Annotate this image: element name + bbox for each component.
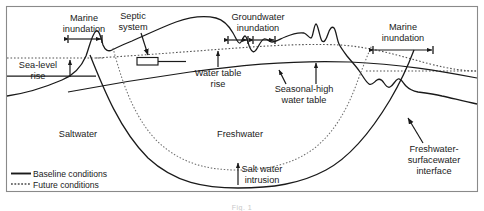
freshwater-surfacewater-interface-label-line1: Freshwater- [409, 144, 458, 154]
marine-inundation-right-label-line1: Marine [389, 22, 417, 32]
seasonal-high-water-table-arrow-1 [279, 70, 286, 84]
freshwater-surfacewater-interface-label-line2: surfacewater [408, 155, 461, 165]
legend-label-future: Future conditions [33, 180, 99, 190]
salt-water-intrusion-label-line1: Salt water [242, 164, 283, 174]
cross-section-diagram: Marine inundation Septic system Groundwa… [0, 0, 484, 211]
groundwater-inundation-label-line1: Groundwater [231, 12, 284, 22]
freshwater-label: Freshwater [217, 129, 263, 139]
marine-inundation-left-label-line2: inundation [63, 24, 105, 34]
salt-water-intrusion-label-line2: intrusion [245, 175, 280, 185]
freshwater-surfacewater-interface-pointer-arrow [408, 118, 423, 143]
sea-level-rise-label-line2: rise [31, 71, 46, 81]
water-table-rise-label-line2: rise [211, 79, 226, 89]
marine-inundation-left-label-line1: Marine [70, 13, 98, 23]
marine-inundation-right-label-line2: inundation [382, 33, 424, 43]
figure-caption: Fig. 1 [0, 204, 484, 211]
sea-level-rise-label-line1: Sea-level [19, 60, 57, 70]
saltwater-label: Saltwater [59, 129, 97, 139]
water-table-rise-label-line1: Water table [195, 68, 242, 78]
septic-system-tank [137, 58, 158, 66]
legend-item-baseline: Baseline conditions [11, 169, 107, 179]
figure-container: Marine inundation Septic system Groundwa… [0, 0, 484, 211]
septic-system-label-line2: system [118, 22, 147, 32]
legend-item-future: Future conditions [11, 180, 99, 190]
seasonal-high-water-table-label-line2: water table [281, 95, 327, 105]
septic-system-pointer-arrow [141, 33, 148, 55]
freshwater-surfacewater-interface-label-line3: interface [416, 166, 451, 176]
septic-system-label-line1: Septic [120, 11, 146, 21]
groundwater-inundation-label-line2: inundation [237, 23, 279, 33]
legend: Baseline conditions Future conditions [11, 169, 107, 190]
baseline-water-table-line [68, 62, 477, 92]
seasonal-high-water-table-label-line1: Seasonal-high [275, 84, 334, 94]
legend-label-baseline: Baseline conditions [33, 169, 107, 179]
